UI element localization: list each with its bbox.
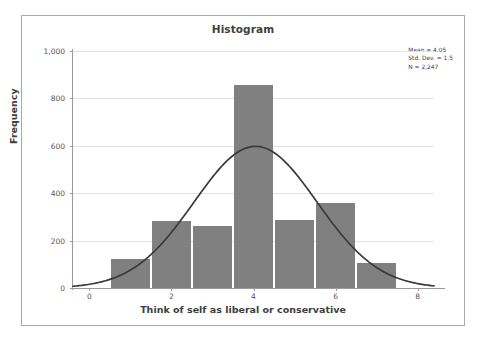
- y-tick-label: 200: [23, 236, 65, 245]
- y-tick-mark: [70, 288, 73, 289]
- x-tick-label: 2: [159, 292, 183, 301]
- y-axis-label: Frequency: [8, 88, 19, 144]
- x-axis-line: [73, 288, 445, 289]
- y-tick-label: 400: [23, 189, 65, 198]
- x-tick-mark: [171, 288, 172, 291]
- y-tick-label: 1,000: [23, 47, 65, 56]
- y-tick-label: 800: [23, 94, 65, 103]
- x-tick-mark: [254, 288, 255, 291]
- normal-distribution-curve: [73, 51, 434, 288]
- x-tick-label: 4: [242, 292, 266, 301]
- x-tick-mark: [418, 288, 419, 291]
- plot-area: [73, 51, 434, 288]
- chart-title: Histogram: [22, 23, 464, 35]
- x-tick-label: 0: [77, 292, 101, 301]
- chart-frame: Histogram Mean = 4.05 Std. Dev. = 1.5 N …: [21, 15, 465, 326]
- y-tick-label: 0: [23, 284, 65, 293]
- curve-path: [73, 146, 434, 286]
- x-tick-mark: [336, 288, 337, 291]
- x-tick-mark: [89, 288, 90, 291]
- x-tick-label: 8: [406, 292, 430, 301]
- x-tick-label: 6: [324, 292, 348, 301]
- x-axis-label: Think of self as liberal or conservative: [22, 304, 464, 315]
- y-tick-label: 600: [23, 141, 65, 150]
